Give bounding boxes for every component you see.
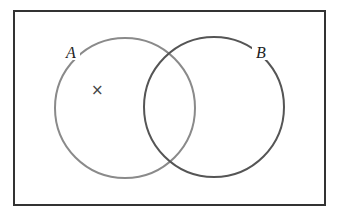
set-a-label: A — [65, 44, 76, 61]
venn-svg: A B × — [0, 0, 341, 219]
set-b-label: B — [256, 44, 266, 61]
universal-set-rectangle — [14, 11, 325, 205]
element-marker: × — [91, 81, 104, 99]
